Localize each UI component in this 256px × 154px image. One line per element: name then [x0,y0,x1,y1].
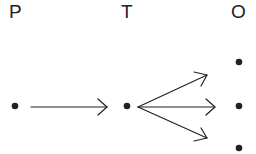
arrow-t-to-o1 [138,72,207,107]
arrow-t-to-o3 [138,107,207,141]
node-o3 [236,145,243,152]
diagram-canvas [0,0,256,154]
arrow-p-to-t [31,99,107,115]
node-t [124,103,131,110]
node-p [12,103,19,110]
node-o2 [236,103,243,110]
node-o1 [236,59,243,66]
nodes [12,59,243,152]
